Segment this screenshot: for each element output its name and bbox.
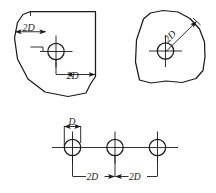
dim-label-tl-horizontal: 2D <box>67 70 80 81</box>
dim-label-bottom-spacing-right: 2D <box>129 172 141 182</box>
view-top-right: 2D <box>136 11 206 84</box>
dim-label-bottom-spacing-left: 2D <box>87 172 99 182</box>
drawing-canvas: 2D 2D 2D <box>0 0 216 193</box>
dim-label-tl-vertical: 2D <box>23 22 36 33</box>
view-top-left: 2D 2D <box>15 12 96 97</box>
engineering-drawing-figure: 2D 2D 2D <box>0 0 216 193</box>
dim-label-bottom-diameter: D <box>68 117 76 127</box>
view-bottom: D 2D 2D <box>52 117 178 183</box>
